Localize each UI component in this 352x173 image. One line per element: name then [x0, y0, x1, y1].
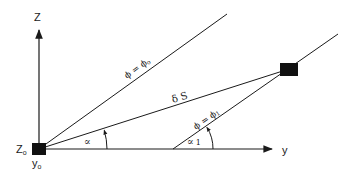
alpha1-arc-arrow-icon	[207, 128, 213, 150]
delta-s-label: δ S	[170, 90, 189, 105]
alpha-arc-arrow-icon	[104, 131, 107, 150]
z-axis: Z	[34, 11, 41, 148]
line-delta-s: δ S	[39, 69, 289, 149]
y-axis-label: y	[282, 144, 288, 156]
geometry-diagram: Z y ϕ = ϕo δ S ϕ = ϕ1 ∝ ∝1	[0, 0, 352, 173]
phi0-label: ϕ = ϕo	[122, 55, 152, 80]
delta-s-line	[39, 69, 289, 149]
origin-z-label-sub: o	[23, 149, 27, 156]
origin-marker-icon	[32, 143, 46, 155]
y-axis: y	[39, 144, 288, 156]
alpha1-label-main: ∝	[187, 136, 194, 147]
origin-z-label: Zo	[16, 143, 27, 156]
origin-y-label-sub: o	[38, 163, 42, 170]
origin-y-label: yo	[32, 157, 42, 170]
phi1-line	[173, 34, 338, 149]
alpha1-label-sub: 1	[196, 138, 201, 147]
origin-point: Zo yo	[16, 143, 46, 170]
target-point	[280, 63, 298, 76]
line-phi1: ϕ = ϕ1	[173, 34, 338, 149]
alpha-label: ∝	[84, 136, 91, 147]
alpha1-label: ∝1	[187, 136, 201, 147]
phi1-label: ϕ = ϕ1	[191, 107, 221, 132]
target-marker-icon	[280, 63, 298, 76]
z-axis-label: Z	[34, 11, 41, 23]
